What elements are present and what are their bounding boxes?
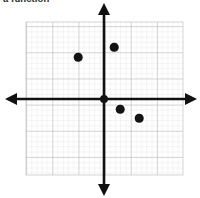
y-axis-down-arrowhead	[98, 184, 110, 196]
x-axis-right-arrowhead	[185, 93, 197, 105]
coordinate-plane-figure	[0, 0, 200, 198]
x-axis-left-arrowhead	[5, 93, 17, 105]
origin-dot	[100, 95, 108, 103]
worksheet-page: a function	[0, 0, 200, 198]
graph-axes	[0, 0, 200, 198]
y-axis-up-arrowhead	[98, 3, 110, 15]
